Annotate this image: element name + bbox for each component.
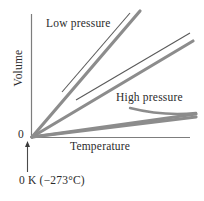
high-pressure-leader-curve [130, 108, 196, 114]
pressure-line-4 [32, 117, 196, 137]
pressure-line-2 [32, 41, 193, 137]
low-pressure-label: Low pressure [46, 17, 111, 29]
absolute-zero-arrow-icon [25, 141, 30, 147]
charles-law-figure: Low pressure High pressure Temperature V… [0, 0, 204, 201]
y-axis-label: Volume [12, 38, 24, 98]
origin-zero-label: 0 [18, 128, 24, 140]
absolute-zero-label: 0 K (−273°C) [19, 174, 85, 186]
x-axis-label: Temperature [70, 140, 130, 152]
high-pressure-label: High pressure [116, 91, 183, 103]
pressure-line-1 [32, 11, 140, 137]
